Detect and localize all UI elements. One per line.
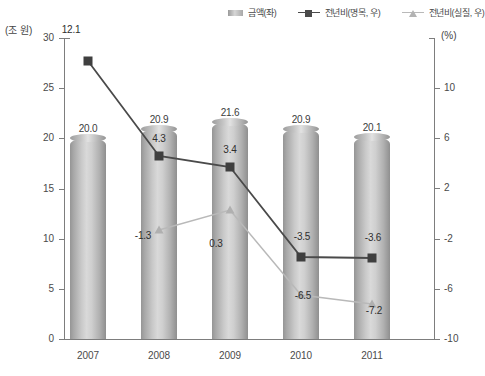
nominal-value-label-2010: -3.5 xyxy=(285,231,319,242)
real-value-label-2008: -1.3 xyxy=(126,230,160,241)
nominal-value-label-2011: -3.6 xyxy=(356,232,390,243)
nominal-growth-marker-2008[interactable] xyxy=(155,152,164,161)
nominal-growth-marker-2007[interactable] xyxy=(84,57,93,66)
x-axis-label-2011: 2011 xyxy=(346,350,398,361)
real-value-label-2011: -7.2 xyxy=(357,305,391,316)
nominal-growth-marker-2010[interactable] xyxy=(297,253,306,262)
real-value-label-2009: 0.3 xyxy=(199,238,233,249)
nominal-growth-marker-2009[interactable] xyxy=(226,163,235,172)
x-axis-label-2009: 2009 xyxy=(204,350,256,361)
x-axis-label-2007: 2007 xyxy=(62,350,114,361)
nominal-value-label-2007: 12.1 xyxy=(54,24,88,35)
nominal-growth-marker-2011[interactable] xyxy=(368,254,377,263)
real-value-label-2010: -6.5 xyxy=(286,290,320,301)
nominal-growth-line xyxy=(88,61,372,258)
nominal-value-label-2008: 4.3 xyxy=(142,133,176,144)
x-axis-label-2010: 2010 xyxy=(275,350,327,361)
x-axis-label-2008: 2008 xyxy=(133,350,185,361)
real-growth-marker-2009[interactable] xyxy=(226,206,235,214)
nominal-value-label-2009: 3.4 xyxy=(213,144,247,155)
